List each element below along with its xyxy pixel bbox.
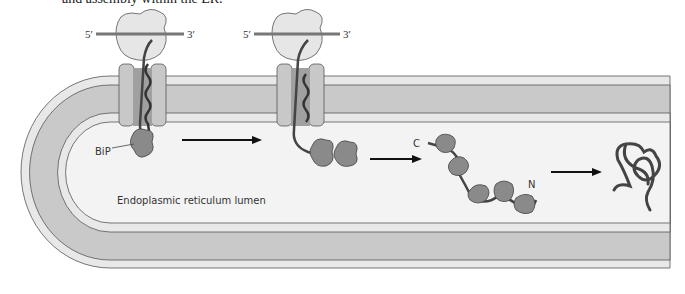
lumen-label: Endoplasmic reticulum lumen — [117, 195, 266, 206]
n-terminus-label: N — [528, 179, 535, 190]
five-prime-label-2: 5′ — [243, 28, 251, 40]
translocon-2 — [277, 64, 324, 126]
bip-3a — [436, 134, 456, 152]
three-prime-label-2: 3′ — [343, 28, 351, 40]
bip-2b — [334, 141, 357, 167]
three-prime-label: 3′ — [187, 28, 195, 40]
er-diagram: 5′ 3′ BiP 5′ 3′ C N — [0, 0, 685, 294]
c-terminus-label: C — [413, 138, 420, 149]
bip-3d — [494, 181, 514, 202]
bip-label: BiP — [95, 146, 111, 157]
bip-3e — [514, 194, 535, 213]
five-prime-label: 5′ — [85, 28, 93, 40]
